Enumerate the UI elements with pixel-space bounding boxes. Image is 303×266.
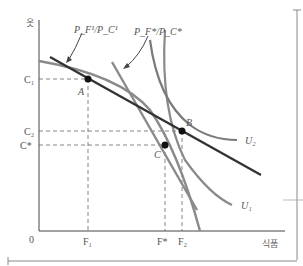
origin-label: 0 — [29, 234, 34, 245]
y-tick-c1: C₁ — [24, 74, 34, 85]
x-tick-fstar: F* — [157, 236, 168, 247]
y-tick-c2: C₂ — [24, 126, 34, 137]
point-b-label: B — [186, 117, 192, 128]
point-a-label: A — [77, 86, 85, 97]
x-tick-f2: F₂ — [178, 236, 187, 247]
y-axis-label: 옷 — [26, 18, 34, 28]
x-axis-label: 식품 — [262, 239, 278, 249]
price-ratio-new-label: P_F*/P_C* — [133, 26, 182, 37]
curve-u2-label: U₂ — [245, 135, 256, 146]
point-c-label: C — [154, 149, 161, 160]
diagram-labels: 옷 식품 0 C₁ C₂ C* F₁ F* F₂ A B C U₁ U₂ P_F… — [0, 0, 303, 266]
y-tick-cstar: C* — [20, 140, 32, 151]
x-tick-f1: F₁ — [83, 236, 92, 247]
price-ratio-original-label: P_F¹/P_C¹ — [73, 24, 118, 35]
curve-u1-label: U₁ — [241, 200, 252, 211]
